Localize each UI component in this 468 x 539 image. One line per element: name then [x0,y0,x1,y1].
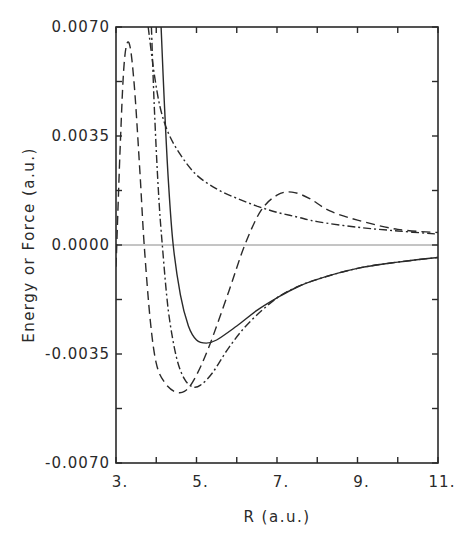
x-tick-label: 5. [192,473,208,491]
y-tick-label: 0.0070 [52,18,111,36]
y-tick-labels: -0.0070-0.00350.00000.00350.0070 [45,18,110,472]
y-tick-label: -0.0070 [45,454,110,472]
chart: -0.0070-0.00350.00000.00350.0070 3.5.7.9… [0,0,468,539]
series-dashdot-line [148,27,438,234]
x-tick-label: 7. [273,473,289,491]
plot-curves [116,27,438,393]
y-tick-label: 0.0035 [52,127,111,145]
y-axis-title: Energy or Force (a.u.) [20,147,38,343]
x-tick-label: 11. [429,473,456,491]
y-tick-label: 0.0000 [52,236,111,254]
x-tick-labels: 3.5.7.9.11. [112,473,456,491]
x-axis-title: R (a.u.) [243,508,310,526]
x-tick-label: 3. [112,473,128,491]
series-dashdot-line [151,27,438,387]
series-solid-line [161,27,438,343]
y-tick-label: -0.0035 [45,345,110,363]
x-tick-label: 9. [353,473,369,491]
